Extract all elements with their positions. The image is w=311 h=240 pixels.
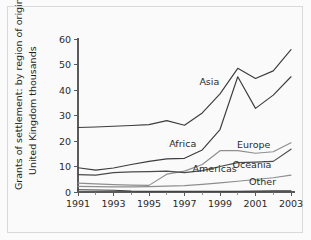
y-tick-label-60: 60 — [59, 34, 71, 45]
series-line-africa — [78, 77, 291, 170]
series-label-other: Other — [249, 176, 276, 187]
x-tick-label-2001: 2001 — [243, 198, 267, 209]
x-tick-label-1995: 1995 — [137, 198, 161, 209]
x-tick-label-1991: 1991 — [66, 198, 90, 209]
series-line-other — [78, 190, 291, 192]
x-tick-label-2003: 2003 — [279, 198, 303, 209]
series-label-africa: Africa — [169, 138, 196, 149]
chart-figure: 0102030405060199119931995199719992001200… — [0, 0, 311, 240]
x-tick-label-1999: 1999 — [208, 198, 232, 209]
y-tick-label-20: 20 — [59, 136, 71, 147]
y-tick-label-0: 0 — [65, 187, 71, 198]
y-axis-title-line1: Grants of settlement: by region of origi… — [13, 0, 24, 190]
x-tick-label-1993: 1993 — [101, 198, 125, 209]
y-tick-label-40: 40 — [59, 85, 71, 96]
y-axis-title-line2: United Kingdom thousands — [27, 46, 38, 175]
series-label-europe: Europe — [237, 139, 271, 150]
series-label-americas: Americas — [193, 163, 237, 174]
line-chart: 0102030405060199119931995199719992001200… — [0, 0, 311, 240]
x-tick-label-1997: 1997 — [172, 198, 196, 209]
series-label-oceania: Oceania — [233, 159, 272, 170]
y-tick-label-50: 50 — [59, 59, 71, 70]
y-tick-label-30: 30 — [59, 110, 71, 121]
series-label-asia: Asia — [199, 76, 219, 87]
series-line-asia — [78, 50, 291, 128]
y-tick-label-10: 10 — [59, 161, 71, 172]
